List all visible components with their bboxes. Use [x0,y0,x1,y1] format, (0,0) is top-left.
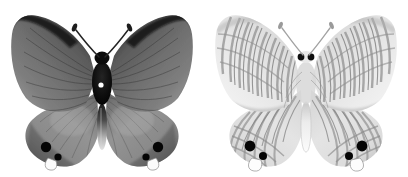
eyespot-right-inner [142,153,149,160]
head-dorsal [95,52,110,65]
eyespot-right-outer [357,141,368,152]
eyespot-left-inner [54,153,61,160]
specimen-plate: Butterfly specimen plate dorsal ventral [0,0,408,177]
eyespot-right-inner [345,152,353,160]
eyespot-left-outer [245,141,256,152]
thorax-ventral [296,62,316,104]
tail-left [248,158,261,171]
abdomen-dorsal [97,104,107,150]
eyespot-left-outer [41,142,51,152]
specimen-ventral [204,0,408,177]
tail-right [350,158,363,171]
thorax-spot [98,82,103,87]
abdomen-ventral [301,102,311,152]
eyespot-right-outer [153,142,163,152]
eyespot-left-inner [259,152,267,160]
specimen-dorsal [0,0,204,177]
